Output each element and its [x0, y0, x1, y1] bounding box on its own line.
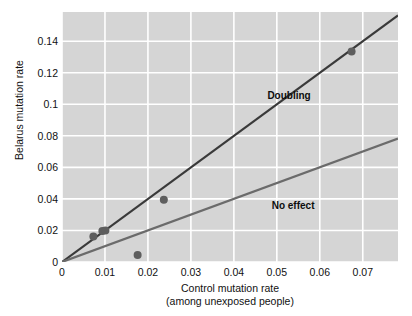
x-tick-label: 0.03	[168, 267, 214, 278]
x-axis-title-sub: (among unexposed people)	[62, 295, 398, 308]
reference-line-doubling	[62, 15, 398, 262]
annotation-no-effect: No effect	[272, 200, 315, 211]
data-point	[134, 251, 142, 259]
x-tick-label: 0.02	[125, 267, 171, 278]
data-point	[160, 196, 168, 204]
data-point	[101, 227, 109, 235]
data-point	[348, 47, 356, 55]
reference-lines	[62, 15, 398, 262]
series-layer	[62, 12, 398, 262]
x-tick-label: 0.06	[297, 267, 343, 278]
y-tick-label: 0	[2, 257, 58, 268]
y-axis-title: Belarus mutation rate	[13, 35, 25, 185]
x-tick-label: 0.04	[211, 267, 257, 278]
x-tick-label: 0	[39, 267, 85, 278]
plot-area: Doubling No effect	[62, 12, 398, 262]
data-points	[89, 47, 355, 258]
y-tick-label: 0.08	[2, 130, 58, 141]
y-tick-label: 0.14	[2, 36, 58, 47]
y-tick-label: 0.06	[2, 162, 58, 173]
data-point	[89, 233, 97, 241]
y-tick-label: 0.12	[2, 67, 58, 78]
annotation-doubling: Doubling	[267, 90, 310, 101]
y-axis-ticks: 00.020.040.060.080.10.120.14	[0, 12, 58, 262]
y-tick-label: 0.02	[2, 225, 58, 236]
y-tick-label: 0.04	[2, 193, 58, 204]
x-axis-title-main: Control mutation rate	[62, 282, 398, 295]
reference-line-no-effect	[62, 139, 398, 262]
x-tick-label: 0.01	[82, 267, 128, 278]
x-axis-title: Control mutation rate (among unexposed p…	[62, 282, 398, 308]
y-tick-label: 0.1	[2, 99, 58, 110]
chart-figure: Doubling No effect 00.020.040.060.080.10…	[0, 0, 412, 316]
x-tick-label: 0.05	[254, 267, 300, 278]
x-axis-ticks: 00.010.020.030.040.050.060.07	[62, 267, 398, 281]
x-tick-label: 0.07	[340, 267, 386, 278]
